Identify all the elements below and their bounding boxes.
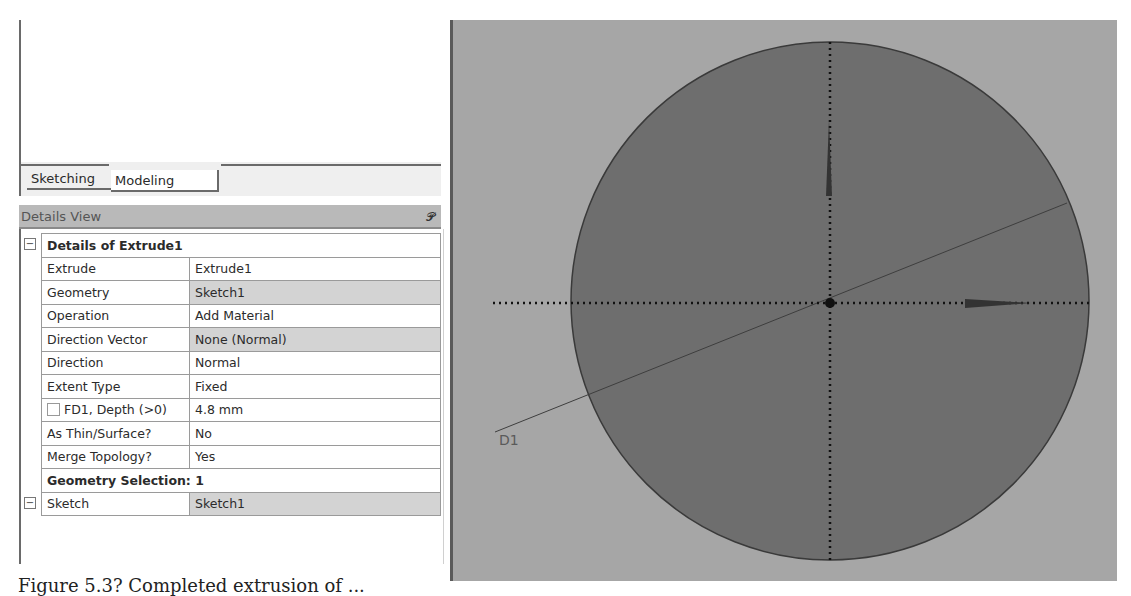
figure-caption: Figure 5.3? Completed extrusion of ... bbox=[18, 576, 365, 596]
group-title: Geometry Selection: 1 bbox=[42, 469, 441, 493]
origin-point-icon bbox=[825, 298, 835, 308]
property-label-text: FD1, Depth (>0) bbox=[64, 402, 167, 417]
left-panel: Sketching Modeling Details View 𝓟 − − De… bbox=[0, 0, 450, 591]
table-row[interactable]: Geometry Sketch1 bbox=[42, 281, 441, 305]
collapse-icon[interactable]: − bbox=[24, 497, 36, 509]
group-header-details[interactable]: Details of Extrude1 bbox=[42, 234, 441, 258]
table-row[interactable]: Operation Add Material bbox=[42, 304, 441, 328]
property-label: Extent Type bbox=[42, 375, 190, 399]
table-row[interactable]: Direction Vector None (Normal) bbox=[42, 328, 441, 352]
property-value[interactable]: Yes bbox=[190, 445, 441, 469]
table-row[interactable]: Extent Type Fixed bbox=[42, 375, 441, 399]
depth-value-field[interactable]: 4.8 mm bbox=[190, 398, 441, 422]
pin-icon[interactable]: 𝓟 bbox=[426, 205, 435, 229]
tab-modeling[interactable]: Modeling bbox=[111, 170, 219, 192]
property-value[interactable]: Extrude1 bbox=[190, 257, 441, 281]
property-value[interactable]: Add Material bbox=[190, 304, 441, 328]
table-row[interactable]: Direction Normal bbox=[42, 351, 441, 375]
group-header-geometry-selection[interactable]: Geometry Selection: 1 bbox=[42, 469, 441, 493]
property-value[interactable]: Fixed bbox=[190, 375, 441, 399]
property-label: Extrude bbox=[42, 257, 190, 281]
property-label: Direction bbox=[42, 351, 190, 375]
tab-divider bbox=[21, 164, 109, 166]
tree-outline-area[interactable] bbox=[19, 20, 441, 163]
properties-table: Details of Extrude1 Extrude Extrude1 Geo… bbox=[41, 233, 441, 516]
table-row[interactable]: As Thin/Surface? No bbox=[42, 422, 441, 446]
property-label: Merge Topology? bbox=[42, 445, 190, 469]
property-label: Direction Vector bbox=[42, 328, 190, 352]
property-value[interactable]: Normal bbox=[190, 351, 441, 375]
property-label: Operation bbox=[42, 304, 190, 328]
tab-sketching[interactable]: Sketching bbox=[27, 168, 111, 190]
parameter-checkbox[interactable] bbox=[47, 403, 60, 416]
details-view-title: Details View bbox=[21, 209, 101, 224]
table-row[interactable]: Extrude Extrude1 bbox=[42, 257, 441, 281]
group-title: Details of Extrude1 bbox=[42, 234, 441, 258]
tab-divider bbox=[221, 164, 441, 166]
dimension-label[interactable]: D1 bbox=[499, 432, 519, 448]
property-label: FD1, Depth (>0) bbox=[42, 398, 190, 422]
graphics-viewport[interactable]: D1 bbox=[450, 20, 1117, 581]
mode-tabs: Sketching Modeling bbox=[19, 162, 441, 196]
table-row[interactable]: Sketch Sketch1 bbox=[42, 492, 441, 516]
property-value[interactable]: No bbox=[190, 422, 441, 446]
property-label: Geometry bbox=[42, 281, 190, 305]
table-row[interactable]: FD1, Depth (>0) 4.8 mm bbox=[42, 398, 441, 422]
property-label: As Thin/Surface? bbox=[42, 422, 190, 446]
model-view bbox=[453, 20, 1120, 581]
table-row[interactable]: Merge Topology? Yes bbox=[42, 445, 441, 469]
property-value[interactable]: Sketch1 bbox=[190, 492, 441, 516]
property-label: Sketch bbox=[42, 492, 190, 516]
property-value[interactable]: Sketch1 bbox=[190, 281, 441, 305]
collapse-icon[interactable]: − bbox=[24, 238, 36, 250]
details-view-panel: − − Details of Extrude1 Extrude Extrude1… bbox=[19, 229, 444, 564]
property-value[interactable]: None (Normal) bbox=[190, 328, 441, 352]
details-view-header: Details View 𝓟 bbox=[19, 205, 441, 229]
